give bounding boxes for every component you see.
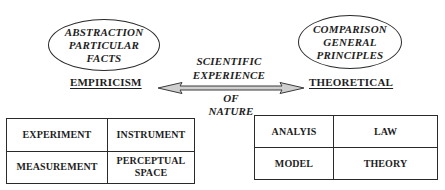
theoretical-ellipse: COMPARISON GENERAL PRINCIPLES: [298, 15, 402, 69]
empiricism-ellipse: ABSTRACTION PARTICULAR FACTS: [48, 19, 160, 71]
cell-text: ANALYIS: [255, 126, 333, 138]
ellipse-text-general: GENERAL: [323, 36, 376, 49]
ellipse-text-particular: PARTICULAR: [69, 39, 139, 52]
double-arrow-icon: [156, 80, 306, 96]
ellipse-text-comparison: COMPARISON: [313, 23, 387, 36]
table-cell-measurement: MEASUREMENT: [7, 151, 108, 184]
table-cell-law: LAW: [334, 116, 438, 148]
table-cell-perceptual-space: PERCEPTUAL SPACE: [108, 151, 195, 184]
cell-text: PERCEPTUAL: [108, 155, 194, 167]
table-cell-instrument: INSTRUMENT: [108, 119, 195, 152]
theoretical-heading: THEORETICAL: [309, 76, 393, 88]
center-label-nature: NATURE: [208, 105, 253, 118]
table-row: EXPERIMENT INSTRUMENT: [7, 119, 195, 152]
table-cell-analysis: ANALYIS: [255, 116, 334, 148]
cell-text: MEASUREMENT: [7, 161, 107, 173]
center-label-scientific: SCIENTIFIC: [197, 55, 262, 68]
theoretical-table: ANALYIS LAW MODEL THEORY: [254, 115, 438, 180]
cell-text: INSTRUMENT: [108, 129, 194, 141]
cell-text: LAW: [334, 126, 437, 138]
ellipse-text-principles: PRINCIPLES: [317, 49, 384, 62]
cell-text: EXPERIMENT: [7, 129, 107, 141]
table-cell-theory: THEORY: [334, 148, 438, 180]
table-cell-model: MODEL: [255, 148, 334, 180]
empiricism-heading: EMPIRICISM: [70, 76, 142, 88]
cell-text: SPACE: [108, 167, 194, 179]
ellipse-text-facts: FACTS: [87, 52, 122, 65]
table-cell-experiment: EXPERIMENT: [7, 119, 108, 152]
cell-text: THEORY: [334, 158, 437, 170]
empiricism-table: EXPERIMENT INSTRUMENT MEASUREMENT PERCEP…: [6, 118, 195, 184]
table-row: ANALYIS LAW: [255, 116, 438, 148]
cell-text: MODEL: [255, 158, 333, 170]
ellipse-text-abstraction: ABSTRACTION: [65, 26, 144, 39]
table-row: MEASUREMENT PERCEPTUAL SPACE: [7, 151, 195, 184]
table-row: MODEL THEORY: [255, 148, 438, 180]
